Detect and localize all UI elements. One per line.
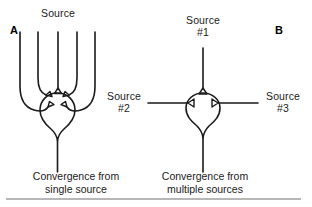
synaptic-terminal-a-left-outer xyxy=(48,102,54,108)
label-source-1: Source #1 xyxy=(173,14,233,38)
caption-panel-b: Convergence from multiple sources xyxy=(135,170,275,195)
soma-panel-a xyxy=(40,93,75,141)
afferent-fiber-4 xyxy=(69,32,77,95)
panel-letter-a: A xyxy=(10,24,18,36)
panel-letter-b: B xyxy=(275,24,283,36)
label-source-2: Source #2 xyxy=(102,90,146,114)
label-panel-a-source: Source xyxy=(22,7,94,19)
label-source-2-line2: #2 xyxy=(102,102,146,114)
panel-a-synaptic-terminals xyxy=(46,88,69,107)
label-source-3: Source #3 xyxy=(260,90,306,114)
panel-b-synaptic-terminals xyxy=(188,88,218,107)
synaptic-terminal-a-right-outer xyxy=(61,102,67,108)
label-source-2-line1: Source xyxy=(102,90,146,102)
caption-panel-a: Convergence from single source xyxy=(6,170,146,195)
label-source-3-line1: Source xyxy=(260,90,306,102)
panel-a-afferent-fibers xyxy=(20,32,95,111)
afferent-fiber-2 xyxy=(38,32,46,95)
label-source-1-line2: #1 xyxy=(173,26,233,38)
soma-panel-b xyxy=(186,93,220,138)
label-source-1-line1: Source xyxy=(173,14,233,26)
label-source-3-line2: #3 xyxy=(260,102,306,114)
figure-canvas: A Source B Source #1 Source #2 Source #3… xyxy=(0,0,312,207)
